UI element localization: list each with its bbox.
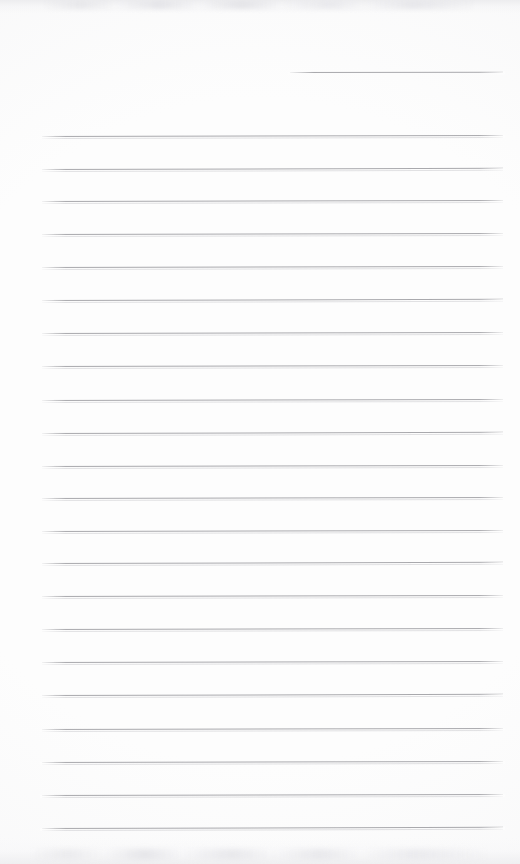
text-line-field[interactable] [42,444,503,466]
text-line-field[interactable] [42,607,503,629]
rule-fade-left [40,466,66,469]
scan-smudge-bottom [0,838,520,864]
rule-fade-left [40,795,66,798]
rule-fade-left [40,695,66,698]
rule-fade-right [479,72,505,75]
text-line-field[interactable] [42,378,503,400]
rule-fade-left [40,629,66,632]
rule-fade-left [40,662,66,665]
text-line-field[interactable] [42,707,503,729]
text-line-field[interactable] [42,311,503,333]
rule-fade-left [40,201,66,204]
text-line-field[interactable] [42,773,503,795]
text-line-field[interactable] [42,476,503,498]
rule-fade-left [40,531,66,534]
rule-fade-left [40,828,66,831]
text-line-field[interactable] [42,806,503,828]
rule-fade-left [40,366,66,369]
text-line-field[interactable] [42,411,503,433]
rule-fade-left [40,563,66,566]
rule-fade-left [40,333,66,336]
text-line-field[interactable] [42,673,503,695]
rule-fade-left [40,400,66,403]
rule-fade-left [40,136,66,139]
text-line-field[interactable] [42,147,503,169]
rule-fade-left [40,498,66,501]
text-line-field[interactable] [42,541,503,563]
rule-fade-left [40,300,66,303]
rule-fade-left [40,596,66,599]
text-line-field[interactable] [42,245,503,267]
text-line-field[interactable] [42,574,503,596]
rule-fade-left [40,729,66,732]
text-line-field[interactable] [42,179,503,201]
scanned-note-page [0,0,520,864]
rule-fade-left [40,169,66,172]
rule-fade-left [40,267,66,270]
rule-fade-left [40,762,66,765]
rule-fade-left [288,72,314,75]
text-line-field[interactable] [42,278,503,300]
text-line-field[interactable] [42,740,503,762]
text-line-field[interactable] [42,509,503,531]
text-line-field[interactable] [42,212,503,234]
date-input[interactable] [290,54,503,72]
text-line-field[interactable] [42,114,503,136]
text-line-field[interactable] [42,344,503,366]
text-line-field[interactable] [42,640,503,662]
rule-fade-left [40,433,66,436]
scan-smudge-top [0,0,520,14]
rule-fade-left [40,234,66,237]
